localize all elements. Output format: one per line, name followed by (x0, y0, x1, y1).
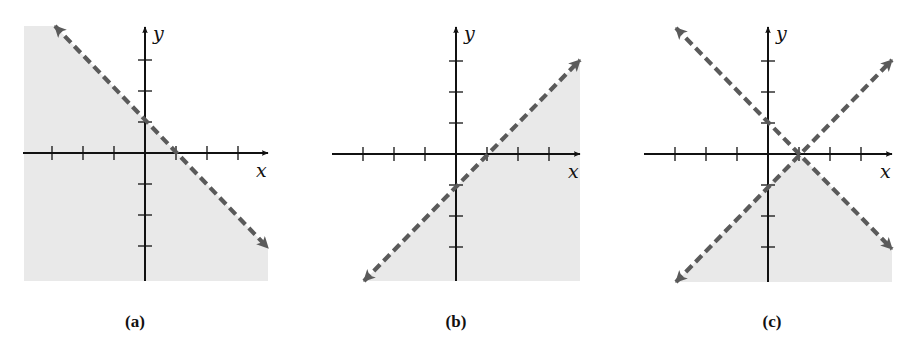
figure-canvas: xyxyxy (0, 0, 907, 354)
y-axis-label: y (775, 22, 787, 44)
panel-label-a: (a) (125, 312, 145, 332)
panel-c: xy (644, 22, 892, 282)
shaded-region (676, 154, 892, 282)
panel-b: xy (332, 22, 580, 281)
panel-label-b: (b) (446, 312, 467, 332)
y-axis-label: y (463, 22, 475, 44)
panel-label-c: (c) (763, 312, 782, 332)
x-axis-label: x (568, 160, 579, 182)
x-axis-label: x (880, 160, 891, 182)
x-axis-label: x (256, 159, 267, 181)
panel-a: xy (23, 22, 268, 281)
y-axis-label: y (152, 22, 164, 44)
